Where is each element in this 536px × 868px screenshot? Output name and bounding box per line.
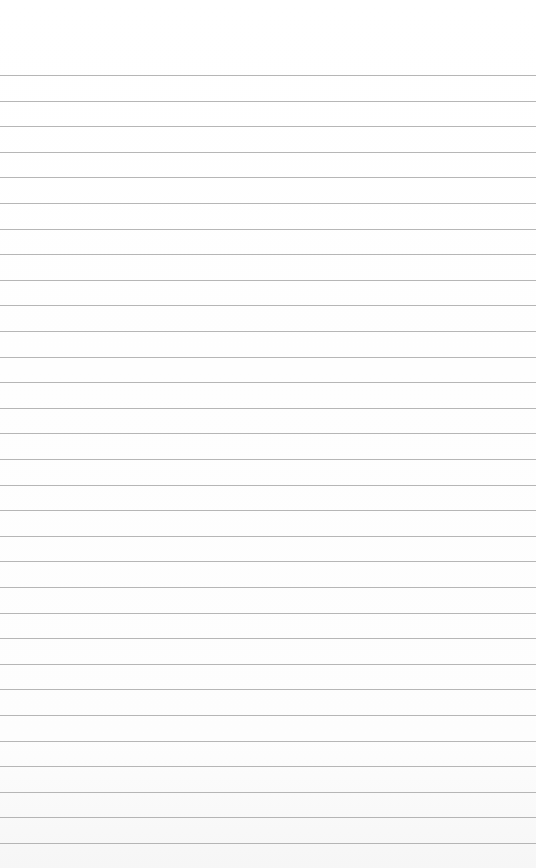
ruled-line — [0, 177, 536, 178]
ruled-line — [0, 689, 536, 690]
ruled-line — [0, 664, 536, 665]
ruled-line — [0, 152, 536, 153]
lined-paper-sheet — [0, 0, 536, 868]
ruled-line — [0, 817, 536, 818]
ruled-line — [0, 561, 536, 562]
ruled-line — [0, 331, 536, 332]
ruled-line — [0, 613, 536, 614]
ruled-line — [0, 741, 536, 742]
ruled-line — [0, 587, 536, 588]
ruled-line — [0, 382, 536, 383]
ruled-line — [0, 75, 536, 76]
ruled-line — [0, 101, 536, 102]
ruled-line — [0, 203, 536, 204]
ruled-line — [0, 485, 536, 486]
ruled-line — [0, 408, 536, 409]
ruled-line — [0, 715, 536, 716]
ruled-line — [0, 433, 536, 434]
ruled-line — [0, 229, 536, 230]
ruled-line — [0, 305, 536, 306]
ruled-line — [0, 536, 536, 537]
ruled-line — [0, 638, 536, 639]
ruled-line — [0, 766, 536, 767]
ruled-line — [0, 280, 536, 281]
ruled-line — [0, 254, 536, 255]
ruled-line — [0, 843, 536, 844]
ruled-line — [0, 459, 536, 460]
ruled-line — [0, 510, 536, 511]
ruled-line — [0, 126, 536, 127]
ruled-line — [0, 792, 536, 793]
ruled-line — [0, 357, 536, 358]
